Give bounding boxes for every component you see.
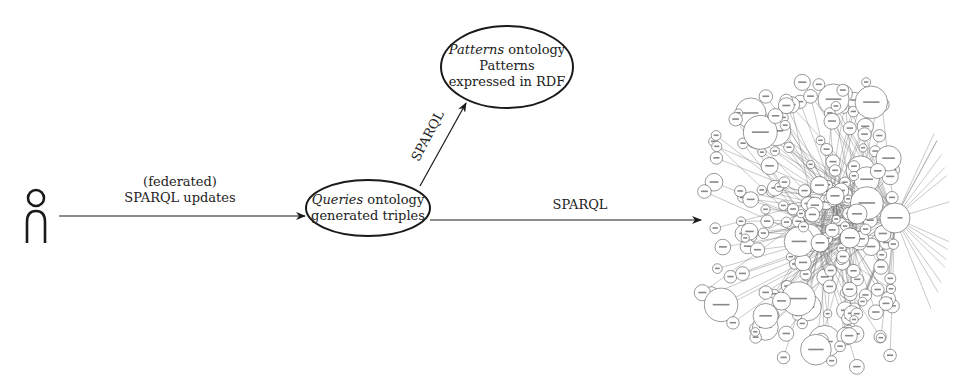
patterns-node-text: Patterns ontology Patterns expressed in … (442, 42, 572, 90)
lod-cloud-graph (694, 74, 949, 374)
edge-label-line2: SPARQL updates (100, 190, 260, 206)
person-icon (27, 190, 45, 243)
edge-label-sparql-lod: SPARQL (540, 197, 620, 213)
patterns-title-rest: ontology (504, 42, 565, 57)
queries-node-text: Queries ontology generated triples (308, 192, 428, 224)
queries-line2: generated triples (308, 208, 428, 224)
patterns-line2: Patterns (442, 58, 572, 74)
edge-label-line1: (federated) (100, 174, 260, 190)
edge-label-federated-updates: (federated) SPARQL updates (100, 174, 260, 206)
queries-title-rest: ontology (363, 192, 424, 207)
patterns-title-italic: Patterns (449, 42, 504, 57)
patterns-line3: expressed in RDF (442, 74, 572, 90)
queries-title-italic: Queries (312, 192, 363, 207)
